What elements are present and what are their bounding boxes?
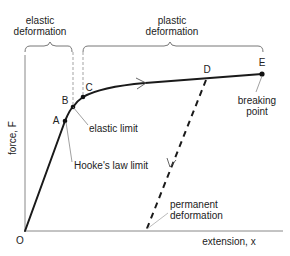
origin-label: O — [16, 235, 24, 246]
elastic-brace — [25, 42, 72, 52]
x-axis-label: extension, x — [202, 236, 255, 247]
elastic-limit-label: elastic limit — [89, 123, 138, 134]
permanent-deformation-leader — [147, 213, 168, 229]
point-a — [63, 119, 68, 124]
point-c-label: C — [85, 82, 92, 93]
point-e-label: E — [259, 57, 266, 68]
y-axis-label: force, F — [7, 121, 18, 155]
force-extension-diagram: elastic deformation plastic deformation … — [0, 0, 290, 256]
plastic-brace — [83, 42, 263, 52]
hookes-law-leader — [66, 122, 72, 162]
elastic-limit-leader — [73, 107, 88, 125]
plastic-label-line2: deformation — [146, 26, 199, 37]
plastic-label-line1: plastic — [158, 15, 186, 26]
loading-curve — [25, 74, 262, 231]
point-d-label: D — [203, 64, 210, 75]
elastic-deformation-label: elastic deformation — [14, 15, 67, 37]
plastic-deformation-label: plastic deformation — [146, 15, 199, 37]
unloading-direction-arrow-icon — [167, 158, 176, 167]
elastic-label-line2: deformation — [14, 26, 67, 37]
point-c — [81, 95, 86, 100]
hookes-law-limit-label: Hooke's law limit — [74, 160, 148, 171]
point-e — [259, 71, 264, 76]
breaking-point-leader — [256, 76, 262, 92]
point-b-label: B — [62, 95, 69, 106]
permanent-deformation-label-1: permanent — [170, 199, 218, 210]
permanent-deformation-label-2: deformation — [170, 210, 223, 221]
point-a-label: A — [53, 115, 60, 126]
breaking-point-label-2: point — [246, 106, 268, 117]
elastic-label-line1: elastic — [26, 15, 54, 26]
breaking-point-label-1: breaking — [238, 95, 276, 106]
